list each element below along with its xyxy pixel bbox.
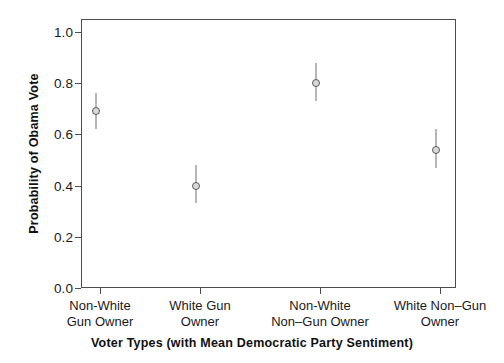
chart-figure: Probability of Obama Vote 0.00.20.40.60.… xyxy=(0,0,504,363)
x-axis-title: Voter Types (with Mean Democratic Party … xyxy=(0,336,504,350)
y-tick-mark xyxy=(75,32,81,33)
x-tick-label-line: White Gun xyxy=(169,298,230,314)
x-tick-label-line: Non-White xyxy=(67,298,133,314)
x-tick-label-line: Owner xyxy=(169,314,230,330)
x-tick-label-line: Non–Gun Owner xyxy=(271,314,369,330)
x-tick-label-line: Owner xyxy=(394,314,487,330)
x-tick-mark xyxy=(320,288,321,294)
x-tick-label-line: Non-White xyxy=(271,298,369,314)
x-tick-label: White Non–GunOwner xyxy=(394,298,487,330)
x-tick-mark xyxy=(100,288,101,294)
x-tick-label: Non-WhiteNon–Gun Owner xyxy=(271,298,369,330)
x-tick-label: Non-WhiteGun Owner xyxy=(67,298,133,330)
y-tick-mark xyxy=(75,237,81,238)
y-tick-mark xyxy=(75,186,81,187)
x-tick-label-line: Gun Owner xyxy=(67,314,133,330)
x-tick-mark xyxy=(440,288,441,294)
x-tick-label-line: White Non–Gun xyxy=(394,298,487,314)
y-tick-mark xyxy=(75,83,81,84)
x-tick-mark xyxy=(200,288,201,294)
y-tick-mark xyxy=(75,288,81,289)
x-tick-label: White GunOwner xyxy=(169,298,230,330)
y-tick-mark xyxy=(75,134,81,135)
x-axis-ticks: Non-WhiteGun OwnerWhite GunOwnerNon-Whit… xyxy=(0,0,504,363)
